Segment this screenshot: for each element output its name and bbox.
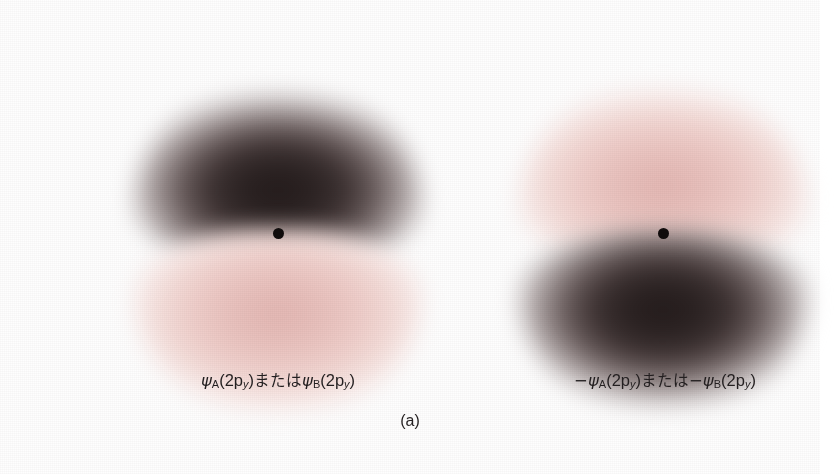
orbital-term-close-b: ) [350, 371, 356, 389]
orbital-lobe-lower-dark-right [518, 230, 808, 420]
orbital-term-open-neg-b: (2p [721, 371, 745, 389]
orbital-diagram-right [498, 80, 828, 370]
psi-symbol-a: ψ [201, 371, 212, 390]
conjunction-matawa-left: または [254, 372, 302, 390]
orbital-label-right: −ψA(2py)または−ψB(2py) [455, 368, 838, 390]
psi-subscript-neg-b: B [714, 378, 721, 390]
nucleus-dot-right [658, 228, 669, 239]
psi-symbol-b: ψ [302, 371, 313, 390]
panel-caption: (a) [0, 412, 820, 430]
orbital-term-close-neg-b: ) [750, 371, 756, 389]
orbital-term-open-b: (2p [320, 371, 344, 389]
orbital-term-open-a: (2p [219, 371, 243, 389]
conjunction-matawa-right: または [641, 372, 689, 390]
nucleus-dot-left [273, 228, 284, 239]
orbital-lobe-lower-pink-left [133, 230, 423, 420]
psi-symbol-neg-b: ψ [703, 371, 714, 390]
orbital-label-left: ψA(2py)またはψB(2py) [68, 368, 488, 390]
psi-symbol-neg-a: ψ [588, 371, 599, 390]
orbital-term-open-neg-a: (2p [606, 371, 630, 389]
orbital-diagram-left [113, 80, 443, 370]
minus-sign-b: − [689, 371, 703, 390]
minus-sign-a: − [574, 371, 588, 390]
